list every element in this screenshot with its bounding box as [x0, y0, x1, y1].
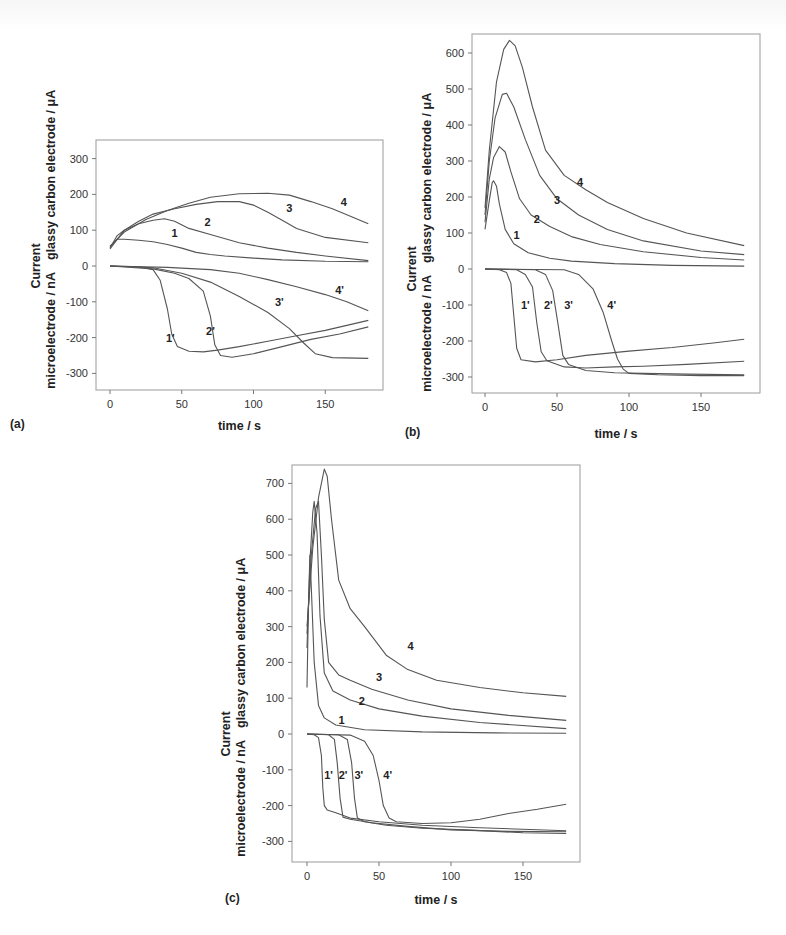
curve-label: 4 [341, 196, 348, 208]
y-tick-label: -300 [66, 367, 88, 379]
curve-3p [485, 269, 744, 375]
y-axis-label-group: Currentglassy carbon electrode / μAmicro… [405, 93, 434, 392]
figure-canvas: 3002001000-100-200-300050100150time / s(… [0, 0, 786, 935]
curve-1p [307, 734, 566, 831]
curve-label: 2 [359, 695, 365, 707]
y-tick-label: -200 [66, 332, 88, 344]
y-axis-bottom-label: microelectrode / nA [420, 275, 434, 392]
curve-label: 1 [338, 714, 344, 726]
curve-label: 4 [408, 640, 415, 652]
panel-label: (a) [10, 417, 25, 431]
y-axis-top-label: glassy carbon electrode / μA [234, 558, 248, 728]
curve-label: 2' [339, 769, 348, 781]
y-tick-label: -300 [262, 835, 284, 847]
x-tick-label: 0 [482, 401, 488, 413]
curve-3 [485, 93, 744, 254]
x-tick-label: 100 [244, 398, 262, 410]
curve-label: 1' [166, 332, 175, 344]
x-tick-label: 50 [551, 401, 563, 413]
x-tick-label: 150 [316, 398, 334, 410]
y-axis-top-label: glassy carbon electrode / μA [44, 90, 58, 260]
curve-4 [485, 40, 744, 245]
curve-3p [307, 734, 566, 834]
x-axis-label: time / s [414, 893, 457, 907]
curve-2p [485, 269, 744, 368]
chart-panel-a: 3002001000-100-200-300050100150time / s(… [10, 90, 383, 433]
y-tick-label: -200 [442, 335, 464, 347]
plot-frame [472, 34, 760, 393]
y-tick-label: -100 [262, 764, 284, 776]
y-tick-label: 100 [70, 224, 88, 236]
curve-2 [110, 219, 368, 261]
y-axis-common-label: Current [405, 246, 419, 292]
curve-label: 1 [514, 229, 520, 241]
y-axis-bottom-label: microelectrode / nA [234, 740, 248, 857]
curve-label: 3' [275, 296, 284, 308]
y-tick-label: -200 [262, 800, 284, 812]
panel-label: (c) [225, 891, 240, 905]
y-axis-top-label: glassy carbon electrode / μA [420, 93, 434, 263]
curve-label: 2' [544, 299, 553, 311]
curve-label: 1' [324, 769, 333, 781]
y-tick-label: 100 [266, 692, 284, 704]
curve-label: 4' [383, 769, 392, 781]
y-tick-label: 500 [446, 83, 464, 95]
x-tick-label: 50 [176, 398, 188, 410]
curve-label: 3' [564, 299, 573, 311]
y-tick-label: 300 [266, 621, 284, 633]
y-tick-label: 600 [446, 47, 464, 59]
y-tick-label: -300 [442, 371, 464, 383]
panel-label: (b) [405, 425, 420, 439]
plot-frame [292, 465, 580, 862]
y-tick-label: 200 [446, 191, 464, 203]
curve-label: 3 [286, 202, 292, 214]
curve-label: 4' [607, 299, 616, 311]
x-axis-label: time / s [218, 419, 261, 433]
x-tick-label: 100 [620, 401, 638, 413]
curve-label: 3' [354, 769, 363, 781]
curve-label: 1 [172, 227, 178, 239]
x-tick-label: 150 [514, 870, 532, 882]
y-tick-label: 0 [278, 728, 284, 740]
y-tick-label: 200 [266, 656, 284, 668]
plot-frame [96, 140, 383, 390]
chart-panel-c: 7006005004003002001000-100-200-300050100… [219, 465, 580, 907]
curve-label: 4 [577, 176, 584, 188]
curve-4 [307, 469, 566, 696]
y-tick-label: 400 [446, 119, 464, 131]
y-axis-bottom-label: microelectrode / nA [44, 272, 58, 389]
y-axis-label-group: Currentglassy carbon electrode / μAmicro… [29, 90, 58, 389]
x-axis-label: time / s [594, 427, 637, 441]
curve-1 [485, 181, 744, 266]
curve-label: 1' [521, 299, 530, 311]
y-tick-label: 0 [458, 263, 464, 275]
chart-panel-b: 6005004003002001000-100-200-300050100150… [405, 34, 760, 441]
y-tick-label: 100 [446, 227, 464, 239]
curve-3p [110, 266, 368, 358]
curve-label: 2 [534, 213, 540, 225]
curve-label: 2' [206, 325, 215, 337]
x-tick-label: 0 [107, 398, 113, 410]
y-tick-label: -100 [66, 296, 88, 308]
y-tick-label: 400 [266, 585, 284, 597]
curve-2 [307, 501, 566, 728]
curve-4p [110, 266, 368, 311]
curve-2 [485, 147, 744, 260]
curve-1 [307, 555, 566, 733]
y-axis-label-group: Currentglassy carbon electrode / μAmicro… [219, 558, 248, 857]
y-tick-label: 200 [70, 188, 88, 200]
curve-label: 4' [335, 284, 344, 296]
y-axis-common-label: Current [219, 711, 233, 757]
curve-label: 3 [376, 671, 382, 683]
curve-3 [307, 501, 566, 720]
x-tick-label: 0 [304, 870, 310, 882]
curve-1p [110, 266, 368, 352]
y-tick-label: 700 [266, 477, 284, 489]
curve-1p [485, 269, 744, 362]
y-tick-label: 0 [82, 260, 88, 272]
curve-label: 3 [554, 194, 560, 206]
y-tick-label: 300 [70, 153, 88, 165]
curve-label: 2 [205, 216, 211, 228]
y-tick-label: 500 [266, 549, 284, 561]
x-tick-label: 150 [692, 401, 710, 413]
